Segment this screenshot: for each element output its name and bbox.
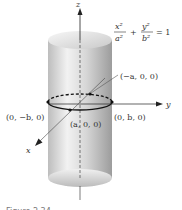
eq-term1-numerator: x²	[115, 22, 123, 31]
point-neg-b-label: (0, −b, 0)	[6, 113, 44, 122]
eq-plus: +	[130, 28, 137, 37]
cylinder-diagram: z y x x² a² + y² b² = 1 (−a, 0, 0) (0, −…	[0, 0, 182, 210]
point-neg-a-label: (−a, 0, 0)	[120, 72, 158, 81]
eq-term2-numerator: y²	[141, 22, 150, 31]
z-axis-label: z	[75, 0, 81, 9]
eq-equals: = 1	[156, 28, 170, 37]
y-axis-label: y	[165, 100, 171, 109]
equation: x² a² + y² b² = 1	[114, 22, 170, 43]
point-pos-a-label: (a, 0, 0)	[70, 120, 101, 129]
cylinder	[48, 31, 112, 187]
point-pos-b-label: (0, b, 0)	[114, 113, 146, 122]
x-axis-label: x	[26, 146, 31, 155]
eq-term2-denominator: b²	[142, 34, 150, 43]
eq-term1-denominator: a²	[115, 34, 123, 43]
figure-caption: Figure 2.34	[6, 207, 51, 210]
